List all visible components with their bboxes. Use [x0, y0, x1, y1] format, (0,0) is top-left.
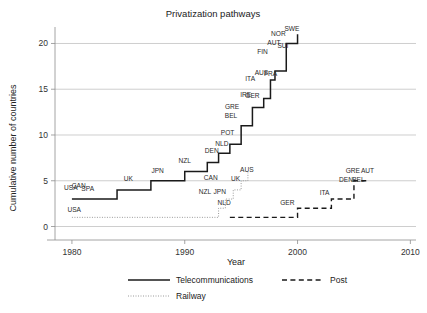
x-tick-label: 1980: [62, 247, 81, 257]
point-label: BEL: [225, 112, 238, 119]
legend-label-railway: Railway: [176, 291, 207, 301]
y-axis-label: Cumulative number of countries: [8, 84, 18, 212]
point-label: USA: [67, 206, 81, 213]
point-label: NZL: [179, 157, 192, 164]
point-label: GER: [245, 92, 260, 99]
y-tick-label: 10: [39, 130, 49, 140]
point-label: SWE: [284, 25, 300, 32]
x-axis-label: Year: [227, 257, 245, 267]
point-label: JPN: [151, 167, 164, 174]
point-label: ITA: [245, 75, 255, 82]
x-tick-label: 2000: [288, 247, 307, 257]
chart-background: [0, 0, 427, 313]
point-label: UK: [231, 175, 241, 182]
y-tick-label: 0: [43, 222, 48, 232]
point-label: NLD: [215, 140, 228, 147]
point-label: DEN: [339, 176, 353, 183]
point-label: UK: [124, 175, 134, 182]
x-tick-label: 2010: [401, 247, 420, 257]
point-label: FRA: [264, 70, 278, 77]
point-label: GER: [280, 199, 295, 206]
point-label: GRE: [346, 167, 361, 174]
privatization-pathways-chart: Privatization pathways 05101520 19801990…: [0, 0, 427, 313]
x-tick-label: 1990: [175, 247, 194, 257]
point-label: BEL: [352, 176, 365, 183]
point-label: POT: [221, 129, 235, 136]
point-label: GRE: [225, 103, 240, 110]
point-label: NZL: [199, 188, 212, 195]
y-tick-label: 5: [43, 176, 48, 186]
point-label: NLD: [218, 199, 231, 206]
point-label: CAN: [204, 174, 218, 181]
point-label: AUS: [240, 166, 254, 173]
chart-title: Privatization pathways: [166, 8, 261, 19]
point-label: SPA: [81, 185, 94, 192]
point-label: ITA: [320, 189, 330, 196]
point-label: DEN: [205, 147, 219, 154]
legend-label-post: Post: [330, 275, 348, 285]
legend-label-telecommunications: Telecommunications: [176, 275, 253, 285]
point-label: AUT: [361, 167, 374, 174]
y-tick-label: 15: [39, 84, 49, 94]
point-label: SUI: [277, 42, 288, 49]
chart-figure: Privatization pathways 05101520 19801990…: [0, 0, 427, 313]
point-label: JPN: [213, 188, 226, 195]
y-tick-label: 20: [39, 38, 49, 48]
point-label: FIN: [257, 48, 268, 55]
